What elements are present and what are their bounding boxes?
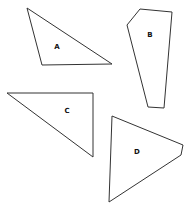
shape-a: A: [27, 8, 112, 65]
shape-d-outline: [109, 116, 183, 202]
shape-c: C: [7, 93, 93, 157]
shape-a-label: A: [54, 43, 60, 51]
shape-c-outline: [7, 93, 93, 157]
shape-d-label: D: [134, 148, 140, 156]
shape-a-outline: [27, 8, 112, 65]
shape-d: D: [109, 116, 183, 202]
shape-b: B: [127, 9, 172, 108]
shapes-diagram: A B C D: [0, 0, 190, 208]
shape-b-outline: [127, 9, 172, 108]
shape-b-label: B: [147, 31, 152, 39]
shape-c-label: C: [64, 107, 69, 115]
